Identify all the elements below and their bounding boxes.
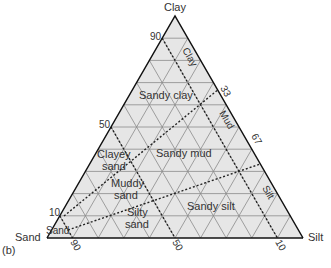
tick-base-10: 10	[273, 238, 288, 254]
region-clayey-sand-line1: Clayey	[97, 148, 131, 160]
region-sandy-silt: Sandy silt	[187, 200, 235, 212]
tick-base-50: 50	[170, 238, 185, 254]
tick-base-90: 90	[68, 238, 83, 254]
region-sand: Sand	[46, 225, 69, 236]
tick-left-90: 90	[150, 31, 162, 42]
region-muddy-sand-line1: Muddy	[111, 177, 145, 189]
region-sandy-mud: Sandy mud	[156, 147, 212, 159]
tick-left-10: 10	[49, 207, 61, 218]
tick-right-67: 67	[249, 132, 264, 148]
corner-label-silt: Silt	[308, 231, 323, 243]
figure-label: (b)	[2, 244, 15, 256]
ternary-diagram: Clay Sand Silt (b) 90 50 10 33 67 90 50 …	[0, 0, 331, 268]
tick-left-50: 50	[99, 119, 111, 130]
corner-label-clay: Clay	[164, 1, 187, 13]
region-muddy-sand-line2: sand	[114, 189, 138, 201]
region-sandy-clay: Sandy clay	[139, 89, 193, 101]
corner-label-sand: Sand	[15, 231, 41, 243]
region-clayey-sand-line2: sand	[102, 160, 126, 172]
region-silty-sand-line1: Silty	[127, 206, 148, 218]
region-silty-sand-line2: sand	[125, 218, 149, 230]
